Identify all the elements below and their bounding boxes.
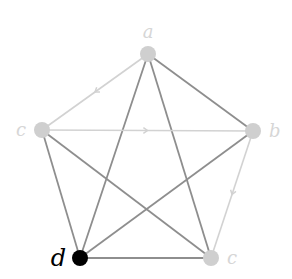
edge-c1-c2 [42,130,211,258]
edge-b-d [80,131,253,258]
edge-a-c2 [148,54,211,258]
node-label-a: a [143,21,154,42]
nodes-group [34,46,261,266]
node-label-c2: c [227,247,237,268]
node-c2 [203,250,219,266]
node-d [72,250,88,266]
node-label-c1: c [16,119,26,140]
edge-c1-d [42,130,80,258]
node-b [245,123,261,139]
edge-a-b [148,54,253,131]
edge-a-d [80,54,148,258]
edges-group [42,54,253,258]
node-label-b: b [269,120,281,141]
graph-diagram: abccd [0,0,292,279]
node-a [140,46,156,62]
node-label-d: d [51,244,66,272]
node-c1 [34,122,50,138]
